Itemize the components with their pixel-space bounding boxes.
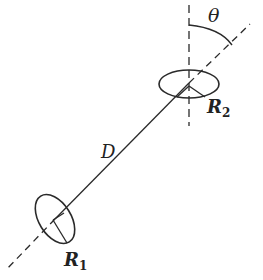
axis-line-solid bbox=[55, 83, 189, 219]
radius-r1-b bbox=[53, 220, 67, 243]
radius-r1-a bbox=[53, 213, 64, 220]
r1-label: R1 bbox=[63, 249, 87, 273]
theta-label: θ bbox=[208, 4, 220, 26]
axis-line-dashed-lower bbox=[6, 219, 55, 270]
diagram-canvas: θ D R2 R1 bbox=[0, 0, 263, 280]
distance-label: D bbox=[100, 141, 116, 162]
theta-arc bbox=[189, 25, 232, 45]
radius-r2-right bbox=[189, 86, 205, 97]
r2-label: R2 bbox=[206, 96, 230, 120]
axis-line-dashed-upper bbox=[189, 24, 250, 83]
radius-r2-left bbox=[177, 86, 189, 97]
